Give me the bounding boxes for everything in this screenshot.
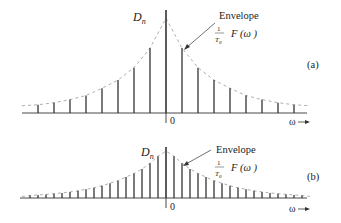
origin-label-a: 0 xyxy=(170,115,175,126)
envelope-label-b: Envelope xyxy=(216,144,256,155)
panel-label-a: (a) xyxy=(307,59,319,71)
frac-den-a: T0 xyxy=(215,36,222,45)
panel-a: Dn Envelope 1 T0 F (ω ) (a) 0 ω xyxy=(22,10,319,127)
envelope-pointer-a xyxy=(186,23,215,48)
arrow-right-icon xyxy=(298,120,310,124)
envelope-pointer-b xyxy=(186,150,211,164)
omega-label-b: ω xyxy=(289,203,296,214)
spectral-lines-b xyxy=(30,147,302,198)
arrowhead-icon xyxy=(183,161,189,166)
frac-den-b: T0 xyxy=(215,170,222,179)
dn-label-b: Dn xyxy=(140,145,154,161)
envelope-func-b: F (ω ) xyxy=(230,162,258,174)
panel-label-b: (b) xyxy=(307,171,320,183)
frac-num-a: 1 xyxy=(217,25,221,33)
envelope-func-a: F (ω ) xyxy=(230,28,258,40)
dn-label-a: Dn xyxy=(132,10,146,26)
frac-num-b: 1 xyxy=(217,159,221,167)
origin-label-b: 0 xyxy=(170,201,175,212)
panel-b: Dn Envelope 1 T0 F (ω ) (b) 0 ω xyxy=(20,144,320,214)
envelope-label-a: Envelope xyxy=(219,10,259,21)
omega-label-a: ω xyxy=(289,116,296,127)
arrow-right-icon xyxy=(298,207,310,211)
fourier-spectrum-figure: Dn Envelope 1 T0 F (ω ) (a) 0 ω Dn Envel… xyxy=(0,0,341,223)
